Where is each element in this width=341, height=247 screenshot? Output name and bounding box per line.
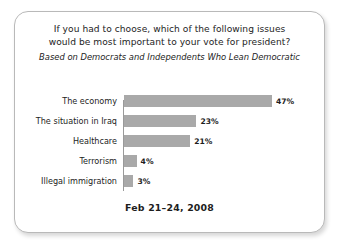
bar-rect [124,95,272,107]
chart-footer-date: Feb 21–24, 2008 [15,202,324,213]
bar-value-label: 23% [200,117,218,126]
bar-value-label: 47% [276,97,294,106]
chart-subtitle: Based on Democrats and Independents Who … [15,51,324,64]
bar-category-label: The situation in Iraq [36,116,117,126]
bar-row: The economy47% [15,91,326,111]
chart-title-line-2: would be most important to your vote for… [15,36,324,49]
bar-rect [124,115,196,127]
bar-value-label: 3% [137,177,150,186]
bar-category-label: Illegal immigration [41,176,117,186]
bar-row: Terrorism4% [15,151,326,171]
bar-value-label: 21% [194,137,212,146]
bar-rect [124,175,133,187]
bar-rect [124,155,137,167]
bar-category-label: Healthcare [73,136,117,146]
chart-title-line-1: If you had to choose, which of the follo… [15,23,324,36]
bar-chart-plot: The economy47%The situation in Iraq23%He… [15,91,326,196]
chart-card: If you had to choose, which of the follo… [14,11,325,233]
bar-row: Healthcare21% [15,131,326,151]
bar-category-label: The economy [62,96,117,106]
bar-row: The situation in Iraq23% [15,111,326,131]
chart-title-block: If you had to choose, which of the follo… [15,23,324,64]
bar-category-label: Terrorism [79,156,117,166]
bar-rect [124,135,190,147]
bar-value-label: 4% [141,157,154,166]
bar-row: Illegal immigration3% [15,171,326,191]
